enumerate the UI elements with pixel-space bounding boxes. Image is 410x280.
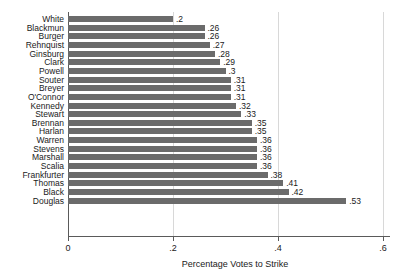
- bar: [68, 68, 226, 74]
- bar: [68, 189, 289, 195]
- bar-chart: 0.2.4.6 White.2Blackmun.26Burger.26Rehnq…: [0, 0, 410, 280]
- bar: [68, 42, 210, 48]
- bar: [68, 85, 231, 91]
- bar: [68, 16, 173, 22]
- x-tick-mark: [278, 237, 279, 241]
- x-tick-mark: [383, 237, 384, 241]
- bar: [68, 137, 257, 143]
- bar: [68, 198, 346, 204]
- gridline-.6: [383, 12, 384, 236]
- bar: [68, 172, 268, 178]
- bar: [68, 111, 241, 117]
- x-axis-title: Percentage Votes to Strike: [0, 259, 410, 270]
- bar: [68, 163, 257, 169]
- bar: [68, 77, 231, 83]
- bar-value-label: .42: [292, 188, 304, 197]
- bar-value-label: .2: [176, 15, 183, 24]
- bar: [68, 180, 283, 186]
- bar-value-label: .38: [271, 171, 283, 180]
- x-tick-label: .2: [169, 243, 177, 254]
- bar: [68, 146, 257, 152]
- bar: [68, 103, 236, 109]
- y-axis-label: Douglas: [0, 197, 64, 206]
- bar: [68, 94, 231, 100]
- bar: [68, 33, 205, 39]
- bar: [68, 128, 252, 134]
- x-tick-label: .6: [379, 243, 387, 254]
- x-tick-mark: [173, 237, 174, 241]
- bar: [68, 154, 257, 160]
- bar: [68, 120, 252, 126]
- bar: [68, 51, 215, 57]
- x-tick-mark: [68, 237, 69, 241]
- x-tick-label: .4: [274, 243, 282, 254]
- x-axis-line: [68, 236, 390, 237]
- x-tick-label: 0: [65, 243, 70, 254]
- bar-value-label: .53: [349, 197, 361, 206]
- x-axis-title-label: Percentage Votes to Strike: [122, 259, 289, 270]
- bar: [68, 25, 205, 31]
- bar: [68, 59, 220, 65]
